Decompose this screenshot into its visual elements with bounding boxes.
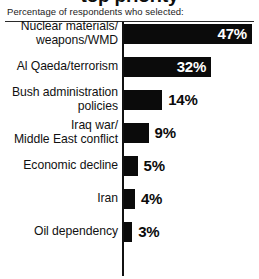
bar-row: Nuclear materials/ weapons/WMD47% bbox=[0, 24, 259, 57]
bar-category-label: Oil dependency bbox=[0, 224, 118, 238]
bar-value-label: 3% bbox=[138, 222, 159, 242]
bar-row: Iran4% bbox=[0, 189, 259, 222]
chart-subtitle: Percentage of respondents who selected: bbox=[7, 6, 184, 18]
bar: 47% bbox=[124, 24, 252, 44]
bar bbox=[124, 90, 162, 110]
bar-chart: top priority Percentage of respondents w… bbox=[0, 0, 259, 279]
bar bbox=[124, 156, 138, 176]
bar bbox=[124, 222, 132, 242]
bar-category-label: Iraq war/ Middle East conflict bbox=[0, 118, 118, 146]
bar-category-label: Iran bbox=[0, 191, 118, 205]
bar-category-label: Economic decline bbox=[0, 158, 118, 172]
bar bbox=[124, 123, 149, 143]
bar-value-label: 32% bbox=[177, 57, 206, 77]
bar-row: Economic decline5% bbox=[0, 156, 259, 189]
bar-row: Iraq war/ Middle East conflict9% bbox=[0, 123, 259, 156]
bar-row: Oil dependency3% bbox=[0, 222, 259, 255]
bar-value-label: 5% bbox=[144, 156, 165, 176]
bar: 32% bbox=[124, 57, 211, 77]
bar-value-label: 47% bbox=[218, 24, 247, 44]
bar-category-label: Bush administration policies bbox=[0, 85, 118, 113]
bar-value-label: 4% bbox=[141, 189, 162, 209]
bar bbox=[124, 189, 135, 209]
bar-value-label: 14% bbox=[168, 90, 197, 110]
bar-rows: Nuclear materials/ weapons/WMD47%Al Qaed… bbox=[0, 24, 259, 255]
bar-value-label: 9% bbox=[155, 123, 176, 143]
bar-category-label: Nuclear materials/ weapons/WMD bbox=[0, 19, 118, 47]
bar-category-label: Al Qaeda/terrorism bbox=[0, 59, 118, 73]
